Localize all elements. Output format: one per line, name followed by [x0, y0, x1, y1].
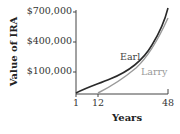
y-tick-label-700000: $700,000 [14, 5, 72, 16]
x-axis-label: Years [112, 112, 142, 123]
y-axis-label: Value of IRA [8, 17, 19, 87]
x-tick-label-48: 48 [158, 97, 178, 108]
y-tick-label-100000: $100,000 [14, 65, 72, 76]
x-tick-label-12: 12 [88, 97, 108, 108]
ira-value-chart: Value of IRA $700,000 $400,000 $100,000 … [0, 0, 180, 134]
larry-series-label: Larry [141, 66, 167, 77]
y-tick-label-400000: $400,000 [14, 35, 72, 46]
earl-series-label: Earl [120, 51, 140, 62]
x-tick-label-1: 1 [66, 97, 86, 108]
